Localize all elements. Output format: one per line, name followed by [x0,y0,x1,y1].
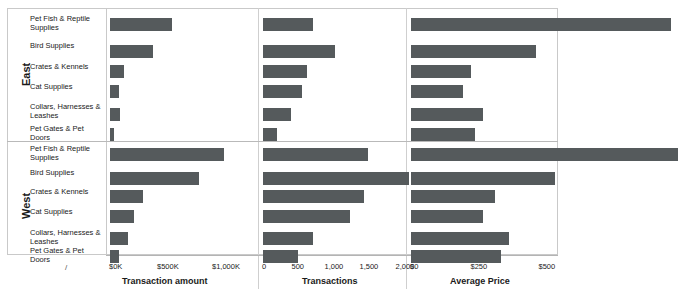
bar-transaction-amount[interactable] [110,65,124,78]
label-gutter-rule [106,8,107,255]
category-label: Pet Gates & Pet Doors [30,124,104,142]
bar-transaction-amount[interactable] [110,210,134,223]
bar-average-price[interactable] [411,45,536,58]
category-label: Pet Gates & Pet Doors [30,246,104,264]
panel-divider-transactions [258,8,259,289]
x-tick-label: 0 [262,262,266,271]
category-label: Collars, Harnesses & Leashes [30,102,104,120]
bar-transaction-amount[interactable] [110,148,224,161]
x-tick-label: 1,500 [360,262,379,271]
bar-average-price[interactable] [411,250,501,263]
bar-transactions[interactable] [263,108,291,121]
category-label: Cat Supplies [30,82,104,91]
category-label: Pet Fish & Reptile Supplies [30,144,104,162]
bar-average-price[interactable] [411,190,495,203]
bar-transaction-amount[interactable] [110,172,199,185]
axis-title-transaction-amount: Transaction amount [122,276,208,286]
bar-transactions[interactable] [263,210,350,223]
bar-transactions[interactable] [263,128,277,141]
bar-transactions[interactable] [263,85,302,98]
category-label: Crates & Kennels [30,187,104,196]
bar-transactions[interactable] [263,172,409,185]
bar-transaction-amount[interactable] [110,108,120,121]
category-label: Collars, Harnesses & Leashes [30,228,104,246]
category-label: Pet Fish & Reptile Supplies [30,14,104,32]
bar-transactions[interactable] [263,45,335,58]
bar-transactions[interactable] [263,190,364,203]
bar-transactions[interactable] [263,232,313,245]
bar-transactions[interactable] [263,65,307,78]
axis-title-average-price: Average Price [450,276,510,286]
bar-average-price[interactable] [411,108,483,121]
x-tick-label: $500K [157,262,179,271]
bar-average-price[interactable] [411,232,509,245]
corner-slash-mark: / [65,263,67,272]
x-tick-label: 500 [292,262,305,271]
bar-average-price[interactable] [411,85,463,98]
bar-average-price[interactable] [411,172,555,185]
bar-transactions[interactable] [263,148,368,161]
x-tick-label: $250 [471,262,488,271]
x-tick-label: $1,000K [212,262,240,271]
bar-transactions[interactable] [263,18,313,31]
x-tick-label: $0K [109,262,122,271]
bar-average-price[interactable] [411,18,671,31]
bar-transaction-amount[interactable] [110,232,128,245]
bar-transaction-amount[interactable] [110,18,172,31]
bar-average-price[interactable] [411,65,471,78]
panel-divider-average-price [406,8,407,289]
category-label: Crates & Kennels [30,62,104,71]
x-tick-label: 1,000 [325,262,344,271]
x-tick-label: $500 [539,262,556,271]
x-tick-label: $0 [410,262,418,271]
category-label: Bird Supplies [30,41,104,50]
bar-transaction-amount[interactable] [110,128,114,141]
bar-average-price[interactable] [411,210,483,223]
bar-average-price[interactable] [411,128,475,141]
bar-average-price[interactable] [411,148,678,161]
category-label: Bird Supplies [30,168,104,177]
bar-transaction-amount[interactable] [110,85,119,98]
bar-transaction-amount[interactable] [110,190,143,203]
axis-title-transactions: Transactions [302,276,358,286]
category-label: Cat Supplies [30,207,104,216]
bar-transaction-amount[interactable] [110,45,153,58]
